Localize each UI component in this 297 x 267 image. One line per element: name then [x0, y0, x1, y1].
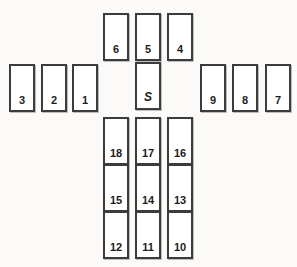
card-9[interactable]: 9 [200, 64, 226, 112]
card-14[interactable]: 14 [135, 164, 161, 212]
card-label: 18 [105, 148, 127, 159]
card-4[interactable]: 4 [167, 13, 193, 61]
card-label: 15 [105, 195, 127, 206]
card-label: 8 [234, 95, 256, 106]
card-label: 4 [169, 44, 191, 55]
card-5[interactable]: 5 [135, 13, 161, 61]
card-label: 17 [137, 148, 159, 159]
card-18[interactable]: 18 [103, 117, 129, 165]
card-label: 13 [169, 195, 191, 206]
card-label: 16 [169, 148, 191, 159]
card-label: 11 [137, 242, 159, 253]
card-7[interactable]: 7 [265, 64, 291, 112]
card-label: 14 [137, 195, 159, 206]
card-s[interactable]: S [135, 62, 161, 110]
card-label: 5 [137, 44, 159, 55]
card-label: 2 [43, 95, 65, 106]
card-spread-board: 654321S987181716151413121110 [0, 0, 297, 267]
card-10[interactable]: 10 [167, 211, 193, 259]
card-12[interactable]: 12 [103, 211, 129, 259]
card-label: 1 [74, 95, 96, 106]
card-label: 7 [267, 95, 289, 106]
card-label: 3 [11, 95, 33, 106]
card-1[interactable]: 1 [72, 64, 98, 112]
card-11[interactable]: 11 [135, 211, 161, 259]
card-label: 9 [202, 95, 224, 106]
card-16[interactable]: 16 [167, 117, 193, 165]
card-6[interactable]: 6 [103, 13, 129, 61]
card-15[interactable]: 15 [103, 164, 129, 212]
card-3[interactable]: 3 [9, 64, 35, 112]
card-label: 10 [169, 242, 191, 253]
card-label: S [137, 92, 159, 103]
card-2[interactable]: 2 [41, 64, 67, 112]
card-13[interactable]: 13 [167, 164, 193, 212]
card-label: 6 [105, 44, 127, 55]
card-label: 12 [105, 242, 127, 253]
card-8[interactable]: 8 [232, 64, 258, 112]
card-17[interactable]: 17 [135, 117, 161, 165]
